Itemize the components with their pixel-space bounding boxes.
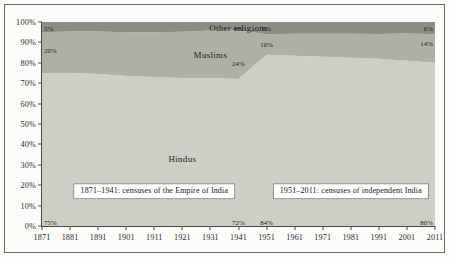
y-tick-mark bbox=[38, 185, 42, 186]
area-band-hindus bbox=[42, 55, 435, 226]
value-label: 24% bbox=[232, 59, 245, 66]
x-tick-mark bbox=[406, 226, 407, 230]
y-tick-label: 50% bbox=[20, 120, 36, 129]
x-tick-mark bbox=[294, 226, 295, 230]
x-tick-label: 1891 bbox=[90, 233, 107, 242]
x-tick-label: 2001 bbox=[399, 233, 416, 242]
x-tick-mark bbox=[182, 226, 183, 230]
chart-frame: 0%10%20%30%40%50%60%70%80%90%100% 187118… bbox=[4, 4, 445, 253]
value-label: 20% bbox=[44, 46, 57, 53]
x-tick-label: 1981 bbox=[342, 233, 359, 242]
x-tick-label: 1871 bbox=[34, 233, 51, 242]
y-tick-mark bbox=[38, 42, 42, 43]
x-tick-mark bbox=[238, 226, 239, 230]
y-tick-mark bbox=[38, 205, 42, 206]
x-tick-label: 1971 bbox=[314, 233, 331, 242]
y-tick-label: 40% bbox=[20, 140, 36, 149]
x-tick-mark bbox=[154, 226, 155, 230]
value-label: 75% bbox=[44, 218, 57, 225]
x-tick-label: 1901 bbox=[118, 233, 135, 242]
value-label: 6% bbox=[424, 25, 433, 32]
y-tick-mark bbox=[38, 62, 42, 63]
y-tick-label: 90% bbox=[20, 38, 36, 47]
x-tick-mark bbox=[126, 226, 127, 230]
y-tick-label: 0% bbox=[25, 222, 36, 231]
series-label-hindus: Hindus bbox=[168, 154, 196, 164]
value-label: 4% bbox=[234, 25, 243, 32]
x-tick-label: 2011 bbox=[427, 233, 443, 242]
y-tick-mark bbox=[38, 103, 42, 104]
x-tick-label: 1911 bbox=[146, 233, 162, 242]
x-tick-mark bbox=[350, 226, 351, 230]
x-tick-label: 1951 bbox=[258, 233, 275, 242]
series-label-muslims: Muslims bbox=[194, 50, 228, 60]
value-label: 72% bbox=[232, 218, 245, 225]
y-tick-mark bbox=[38, 22, 42, 23]
y-tick-label: 60% bbox=[20, 99, 36, 108]
x-tick-mark bbox=[378, 226, 379, 230]
chart-screenshot: 0%10%20%30%40%50%60%70%80%90%100% 187118… bbox=[0, 0, 451, 259]
x-tick-mark bbox=[266, 226, 267, 230]
value-label: 80% bbox=[420, 218, 433, 225]
caption-box: 1871–1941: censuses of the Empire of Ind… bbox=[73, 184, 235, 200]
y-tick-label: 100% bbox=[16, 18, 36, 27]
x-tick-label: 1961 bbox=[286, 233, 303, 242]
y-tick-label: 20% bbox=[20, 181, 36, 190]
plot-area: 0%10%20%30%40%50%60%70%80%90%100% 187118… bbox=[41, 22, 435, 227]
x-tick-label: 1941 bbox=[230, 233, 247, 242]
x-tick-label: 1921 bbox=[174, 233, 191, 242]
y-tick-mark bbox=[38, 164, 42, 165]
y-tick-label: 70% bbox=[20, 79, 36, 88]
x-tick-label: 1931 bbox=[202, 233, 219, 242]
x-tick-mark bbox=[322, 226, 323, 230]
value-label: 10% bbox=[260, 41, 273, 48]
y-tick-label: 80% bbox=[20, 58, 36, 67]
x-tick-mark bbox=[70, 226, 71, 230]
value-label: 84% bbox=[260, 218, 273, 225]
y-tick-mark bbox=[38, 144, 42, 145]
value-label: 6% bbox=[262, 25, 271, 32]
x-tick-mark bbox=[98, 226, 99, 230]
x-tick-mark bbox=[42, 226, 43, 230]
x-tick-label: 1881 bbox=[62, 233, 79, 242]
y-tick-label: 10% bbox=[20, 201, 36, 210]
y-tick-mark bbox=[38, 83, 42, 84]
value-label: 14% bbox=[420, 40, 433, 47]
y-tick-label: 30% bbox=[20, 160, 36, 169]
value-label: 5% bbox=[44, 25, 53, 32]
y-tick-mark bbox=[38, 124, 42, 125]
caption-box: 1951–2011: censuses of independent India bbox=[273, 184, 429, 200]
x-tick-mark bbox=[210, 226, 211, 230]
x-tick-mark bbox=[435, 226, 436, 230]
x-tick-label: 1991 bbox=[370, 233, 387, 242]
